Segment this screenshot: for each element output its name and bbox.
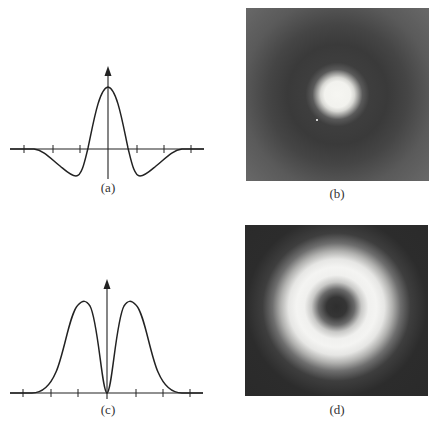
panel-d-image [245,225,428,396]
plot-c-arrow-icon [104,279,111,289]
panel-b-label: (b) [329,186,344,202]
panel-c-label: (c) [101,402,115,418]
panel-b-image [246,8,429,181]
plot-a-curve [10,87,204,176]
panel-c: (c) [0,212,220,425]
plot-a-arrow-icon [105,66,112,76]
plot-c-canvas [0,212,220,425]
panel-a-label: (a) [101,180,115,196]
panel-d-label: (d) [329,402,344,418]
panel-b-speck [316,119,318,121]
panel-a: (a) [0,0,220,210]
plot-a-canvas [0,0,220,210]
